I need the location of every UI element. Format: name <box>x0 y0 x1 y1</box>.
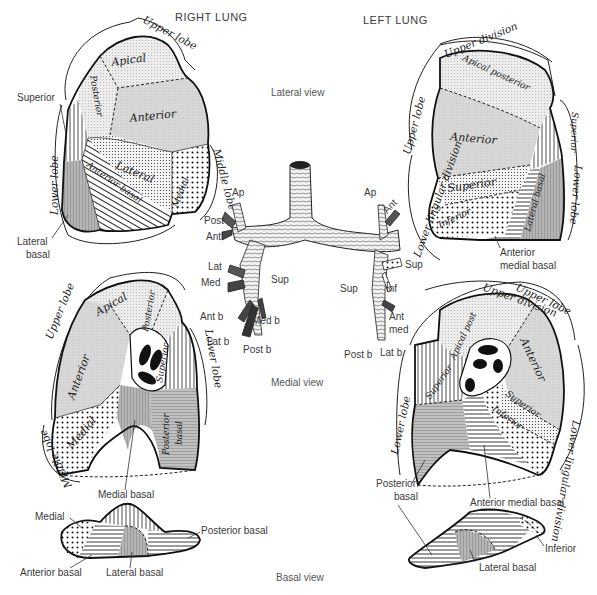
left-lung-medial-view: Apical post Anterior Superior Superior I… <box>376 281 584 543</box>
bronchus-left-inferior: Inf <box>386 283 397 294</box>
bronchus-right-medial: Med <box>201 277 220 288</box>
lower-lobe-label: Lower lobe <box>48 156 60 216</box>
vein-opening-2 <box>465 378 475 392</box>
posterior-basal-callout: Posterior basal <box>201 525 268 536</box>
vein-opening-1 <box>493 359 503 373</box>
anterior-medial-basal-callout-line1: Anterior <box>500 247 536 258</box>
posterior-basal-label-line2: basal <box>174 421 184 445</box>
bronchus-right-apical: Ap <box>232 187 245 198</box>
bronchus-left-superior-lingular: Sup <box>405 259 423 270</box>
anterior-medial-basal-callout-line2: medial basal <box>500 260 556 271</box>
anterior-basal-callout: Anterior basal <box>20 567 82 578</box>
bronchus-left-anterior-medial-2: med <box>389 324 408 335</box>
bronchus-left-lateral-basal: Lat b <box>380 347 403 358</box>
bronchus-right-lateral: Lat <box>208 261 222 272</box>
bronchus-left-posterior-basal: Post b <box>344 349 373 360</box>
posterior-basal-callout-line2: basal <box>394 491 418 502</box>
right-lung-heading: RIGHT LUNG <box>175 11 248 23</box>
bronchus-left-superior: Sup <box>340 283 358 294</box>
bronchus-right-superior: Sup <box>271 274 289 285</box>
lower-lobe-label: Lower lobe <box>388 395 412 457</box>
middle-lobe-label: Middle lobe <box>211 146 239 211</box>
lower-lobe-label: Lower lobe <box>568 164 585 225</box>
medial-view-label: Medial view <box>271 377 324 388</box>
superior-lower-label: Superior <box>569 112 580 153</box>
anterior-medial-basal-callout: Anterior medial basal <box>470 497 564 508</box>
basal-view-label: Basal view <box>276 572 325 583</box>
medial-callout: Medial <box>35 511 64 522</box>
upper-lobe-label: Upper lobe <box>400 95 427 156</box>
posterior-basal-segment <box>412 400 470 485</box>
lung-segments-diagram: RIGHT LUNG LEFT LUNG Lateral view Medial… <box>0 0 597 595</box>
lateral-basal-callout-line1: Lateral <box>17 236 48 247</box>
artery-opening <box>478 345 498 355</box>
inferior-callout: Inferior <box>545 543 577 554</box>
bronchus-opening <box>473 359 487 369</box>
lateral-basal-callout: Lateral basal <box>479 562 536 573</box>
lateral-basal-callout: Lateral basal <box>106 567 163 578</box>
posterior-basal-callout-line1: Posterior <box>376 478 417 489</box>
medial-basal-callout: Medial basal <box>98 489 154 500</box>
bronchus-right-posterior: Post <box>204 215 224 226</box>
medial-basal-segment <box>117 385 152 450</box>
bronchus-left-anterior-medial-1: Ant <box>389 311 404 322</box>
bronchus-right-anterior-basal: Ant b <box>200 311 224 322</box>
left-lung-lateral-view: Apical posterior Anterior Superior Infer… <box>400 19 585 271</box>
right-basal-view: Medial Posterior basal Anterior basal La… <box>20 504 268 578</box>
left-basal-view: Inferior Lateral basal <box>398 505 577 573</box>
lateral-view-label: Lateral view <box>271 87 325 98</box>
lateral-basal-callout-line2: basal <box>26 249 50 260</box>
bronchus-right-medial-basal: Med b <box>252 315 280 326</box>
superior-callout: Superior <box>17 92 55 103</box>
bronchus-left-apical: Ap <box>364 187 377 198</box>
left-lung-heading: LEFT LUNG <box>363 14 428 26</box>
trachea-and-main-bronchi <box>232 165 400 252</box>
bronchial-tree: Ap Post Ant Lat Med Sup Ant b Med b Lat … <box>200 161 423 360</box>
right-lung-medial-view: Apical Posterior Anterior Superior Media… <box>36 272 225 500</box>
bronchus-right-posterior-basal: Post b <box>243 344 272 355</box>
trachea-lumen <box>290 161 310 169</box>
bronchus-right-anterior: Ant <box>206 231 221 242</box>
posterior-basal-label-line1: Posterior <box>161 413 171 456</box>
